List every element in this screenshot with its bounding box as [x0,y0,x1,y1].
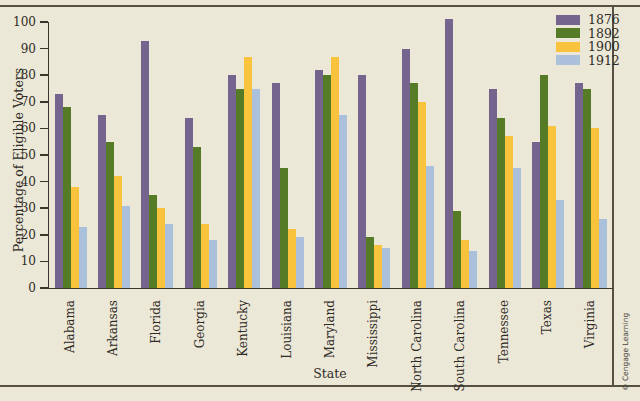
y-tick-label: 40 [1,176,36,188]
bar-1900 [374,245,382,288]
bar-1876 [532,142,540,288]
bar-group-louisiana [266,22,309,288]
x-tick-label: Florida [150,295,194,314]
bar-1900 [591,128,599,288]
legend: 1876189219001912 [556,13,620,67]
x-tick-label-text: Mississippi [367,300,379,368]
plot-area: 0102030405060708090100AlabamaArkansasFlo… [48,22,613,289]
bar-1876 [272,83,280,288]
legend-label: 1900 [588,40,620,53]
x-tick-label-text: Louisiana [281,300,293,359]
bar-1892 [236,89,244,289]
y-tick-mark [40,21,48,23]
bar-1892 [149,195,157,288]
y-tick-mark [40,154,48,156]
bar-1876 [575,83,583,288]
x-tick-label-text: Georgia [194,300,206,348]
bar-1900 [505,136,513,288]
y-tick-mark [40,74,48,76]
bar-1876 [315,70,323,288]
bar-1876 [185,118,193,288]
bar-1892 [193,147,201,288]
bar-1892 [410,83,418,288]
x-tick-label: Texas [541,295,575,314]
bar-group-mississippi [353,22,396,288]
bar-1892 [63,107,71,288]
x-tick-label-text: Kentucky [237,300,249,357]
y-tick-mark [40,261,48,263]
bar-1876 [98,115,106,288]
y-tick-label: 90 [1,43,36,55]
legend-label: 1912 [588,54,620,67]
bottom-rule [0,385,640,387]
bar-group-maryland [309,22,352,288]
x-tick-label-text: Florida [150,300,162,344]
bar-1900 [288,229,296,288]
bar-1912 [209,240,217,288]
bar-1912 [513,168,521,288]
x-axis-title: State [48,366,612,381]
y-tick-label: 30 [1,202,36,214]
y-tick-mark [40,287,48,289]
bar-1876 [358,75,366,288]
y-tick-label: 10 [1,255,36,267]
x-tick-label-text: Arkansas [107,300,119,356]
bar-1876 [141,41,149,288]
y-tick-label: 0 [1,282,36,294]
bar-1912 [426,166,434,288]
legend-swatch [556,55,580,65]
bar-1876 [228,75,236,288]
copyright-notice: © Cengage Learning [621,383,640,401]
x-tick-label-text: Virginia [584,300,596,348]
x-tick-label: Georgia [194,295,242,314]
bar-1912 [296,237,304,288]
bar-1912 [469,251,477,288]
bar-group-georgia [179,22,222,288]
bar-group-north-carolina [396,22,439,288]
y-tick-mark [40,128,48,130]
y-tick-mark [40,234,48,236]
top-rule [0,5,640,7]
y-tick-mark [40,181,48,183]
bar-1900 [331,57,339,288]
bar-1912 [599,219,607,288]
bar-group-kentucky [223,22,266,288]
x-tick-label: Virginia [584,295,632,314]
bar-1900 [157,208,165,288]
bar-1900 [71,187,79,288]
bar-1876 [55,94,63,288]
bar-group-arkansas [92,22,135,288]
bar-1912 [252,89,260,289]
y-tick-mark [40,48,48,50]
bar-1912 [165,224,173,288]
bar-group-florida [136,22,179,288]
bar-1892 [323,75,331,288]
bar-1912 [382,248,390,288]
legend-label: 1876 [588,13,620,26]
bar-1912 [339,115,347,288]
y-tick-label: 60 [1,122,36,134]
bar-1912 [556,200,564,288]
legend-swatch [556,42,580,52]
x-tick-label-text: Alabama [64,300,76,353]
bar-1900 [201,224,209,288]
bar-1900 [244,57,252,288]
x-tick-label-text: Texas [541,300,553,334]
y-tick-label: 20 [1,229,36,241]
copyright-text: © Cengage Learning [621,313,630,391]
y-tick-mark [40,207,48,209]
bar-1900 [114,176,122,288]
bar-1892 [497,118,505,288]
bar-1876 [445,19,453,288]
legend-label: 1892 [588,27,620,40]
bar-1876 [489,89,497,289]
bar-1892 [280,168,288,288]
legend-item-1912: 1912 [556,54,620,67]
legend-item-1876: 1876 [556,13,620,26]
x-tick-label-text: Tennessee [498,300,510,363]
legend-swatch [556,28,580,38]
bar-1912 [122,206,130,288]
bar-1900 [461,240,469,288]
y-tick-label: 50 [1,149,36,161]
bar-1876 [402,49,410,288]
